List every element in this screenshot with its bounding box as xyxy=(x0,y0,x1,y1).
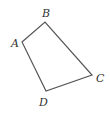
vertex-label-b: B xyxy=(41,7,50,20)
vertex-label-c: C xyxy=(96,72,105,85)
quadrilateral-diagram: A B C D xyxy=(0,0,110,113)
quadrilateral-abcd xyxy=(22,22,92,91)
vertex-label-a: A xyxy=(10,37,19,50)
vertex-label-d: D xyxy=(38,96,48,109)
